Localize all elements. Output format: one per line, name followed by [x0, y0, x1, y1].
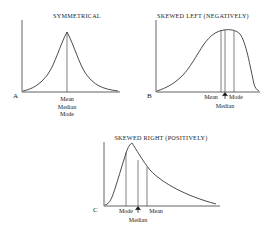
panel-b-plot — [134, 0, 268, 120]
panel-c-curve — [105, 143, 216, 205]
panel-symmetrical: SYMMETRICAL A Mean Median Mode — [0, 0, 134, 120]
panel-a-letter: A — [13, 92, 18, 100]
panel-b-label-median: Median — [210, 103, 240, 109]
panel-c-label-mean: Mean — [141, 208, 171, 214]
panel-skewed-left: SKEWED LEFT (NEGATIVELY) B Mean Mode Med… — [134, 0, 268, 120]
panel-a-label-mode: Mode — [43, 111, 91, 119]
panel-a-center-labels: Mean Median Mode — [43, 96, 91, 119]
panel-c-label-mode: Mode — [111, 208, 141, 214]
panel-b-letter: B — [147, 92, 152, 100]
panel-a-axes — [22, 20, 120, 92]
panel-a-label-median: Median — [43, 104, 91, 112]
panel-a-curve — [23, 32, 118, 91]
panel-c-axes — [104, 142, 220, 206]
panel-c-letter: C — [93, 206, 98, 214]
panel-b-label-mode: Mode — [221, 94, 251, 100]
panel-skewed-right: SKEWED RIGHT (POSITIVELY) C Mode Mean Me… — [46, 120, 236, 241]
panel-a-label-mean: Mean — [43, 96, 91, 104]
panel-b-axes — [156, 20, 260, 92]
panel-c-label-median: Median — [123, 217, 153, 223]
panel-b-curve — [157, 30, 259, 91]
